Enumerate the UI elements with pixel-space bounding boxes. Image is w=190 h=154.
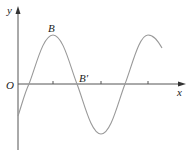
sine-graph: y O x B B′: [0, 0, 190, 154]
origin-label: O: [6, 79, 14, 91]
point-b-prime-label: B′: [79, 72, 89, 84]
y-axis-arrow-icon: [16, 6, 21, 14]
x-axis-label: x: [176, 86, 182, 98]
y-axis-label: y: [6, 4, 12, 16]
point-b-label: B: [48, 22, 55, 34]
